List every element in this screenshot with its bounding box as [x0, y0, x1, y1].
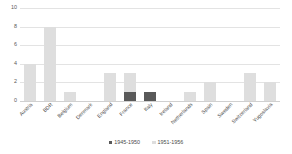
bar-group[interactable]	[20, 8, 40, 101]
y-tick-label-10: 10	[11, 5, 17, 10]
x-axis-labels: AustriaBDRBelgiumDenmarkEnglandFranceIta…	[20, 101, 280, 135]
plot-area: 0246810	[20, 8, 280, 101]
legend-label: 1951-1956	[158, 140, 184, 145]
legend-item[interactable]: 1945-1950	[109, 140, 140, 145]
bar-segment[interactable]	[124, 73, 136, 92]
bar-segment[interactable]	[204, 82, 216, 101]
bar-stack[interactable]	[204, 82, 216, 101]
bar-group[interactable]	[80, 8, 100, 101]
x-label-slot: Yugoslavia	[260, 101, 280, 135]
y-tick-label-6: 6	[14, 42, 17, 47]
y-tick-label-8: 8	[14, 24, 17, 29]
x-tick-label: Austria	[19, 102, 34, 117]
y-tick-label-2: 2	[14, 80, 17, 85]
x-tick-label: Sweden	[217, 102, 234, 119]
legend-swatch-light	[152, 141, 156, 145]
x-label-slot: Italy	[140, 101, 160, 135]
bar-segment[interactable]	[64, 92, 76, 101]
bar-stack[interactable]	[64, 92, 76, 101]
legend-swatch-dark	[109, 141, 113, 145]
y-tick-label-4: 4	[14, 61, 17, 66]
x-label-slot: Spain	[200, 101, 220, 135]
legend-label: 1945-1950	[114, 140, 140, 145]
bar-stack[interactable]	[144, 92, 156, 101]
bar-stack[interactable]	[44, 27, 56, 101]
x-tick-label: Spain	[201, 102, 214, 115]
x-tick-label: England	[97, 102, 114, 119]
bar-group[interactable]	[60, 8, 80, 101]
x-tick-label: BDR	[42, 102, 53, 113]
bar-group[interactable]	[260, 8, 280, 101]
bars-layer	[20, 8, 280, 101]
x-tick-label: France	[119, 102, 134, 117]
bar-segment[interactable]	[264, 82, 276, 101]
x-tick-label: Italy	[143, 102, 153, 112]
x-label-slot: Netherlands	[180, 101, 200, 135]
chart-legend: 1945-19501951-1956	[0, 140, 292, 145]
y-tick-label-0: 0	[14, 98, 17, 103]
bar-stack[interactable]	[104, 73, 116, 101]
bar-stack[interactable]	[24, 64, 36, 101]
x-tick-label: Ireland	[159, 102, 174, 117]
bar-segment[interactable]	[184, 92, 196, 101]
bar-group[interactable]	[240, 8, 260, 101]
bar-segment[interactable]	[104, 73, 116, 101]
bar-segment[interactable]	[44, 27, 56, 101]
bar-stack[interactable]	[184, 92, 196, 101]
x-label-slot: Austria	[20, 101, 40, 135]
bar-segment[interactable]	[144, 92, 156, 101]
x-label-slot: France	[120, 101, 140, 135]
x-label-slot: Denmark	[80, 101, 100, 135]
bar-segment[interactable]	[24, 64, 36, 101]
bar-stack[interactable]	[124, 73, 136, 101]
bar-group[interactable]	[100, 8, 120, 101]
bar-chart: 0246810 AustriaBDRBelgiumDenmarkEnglandF…	[0, 0, 292, 154]
bar-group[interactable]	[180, 8, 200, 101]
bar-stack[interactable]	[264, 82, 276, 101]
bar-segment[interactable]	[244, 73, 256, 101]
bar-group[interactable]	[140, 8, 160, 101]
bar-group[interactable]	[120, 8, 140, 101]
bar-stack[interactable]	[244, 73, 256, 101]
bar-segment[interactable]	[124, 92, 136, 101]
bar-group[interactable]	[200, 8, 220, 101]
bar-group[interactable]	[40, 8, 60, 101]
x-label-slot: England	[100, 101, 120, 135]
bar-group[interactable]	[160, 8, 180, 101]
legend-item[interactable]: 1951-1956	[152, 140, 183, 145]
x-tick-label: Belgium	[57, 102, 74, 119]
x-label-slot: BDR	[40, 101, 60, 135]
bar-group[interactable]	[220, 8, 240, 101]
